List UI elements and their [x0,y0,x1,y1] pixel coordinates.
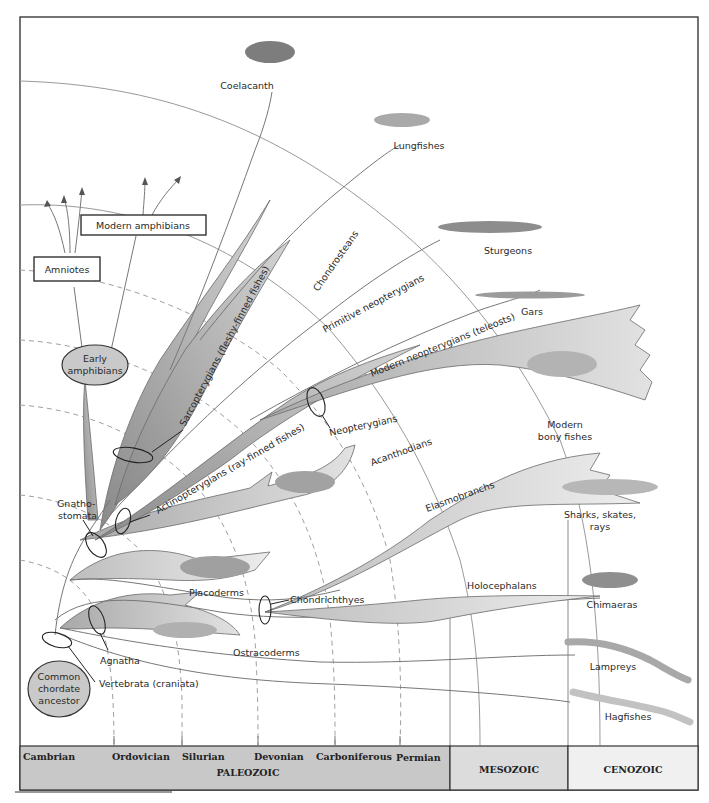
lineages [44,92,652,702]
common-ancestor-label-3: ancestor [38,695,79,706]
vertebrata-ring [41,629,74,650]
period-permian: Permian [396,752,441,763]
sturgeon-illustration [438,221,542,233]
hagfishes-label: Hagfishes [605,711,652,722]
sharks-label-1: Sharks, skates, [564,509,636,520]
vertebrata-label: Vertebrata (craniata) [99,678,199,689]
amphibian-arrow-2 [152,178,180,215]
agnatha-label: Agnatha [100,655,140,666]
arrowhead [142,177,148,185]
period-ordovician: Ordovician [112,751,170,762]
era-cenozoic: CENOZOIC [604,764,663,775]
early-amphibians-label-1: Early [83,353,107,364]
arc-period-5 [20,560,114,745]
placoderm-illustration [180,556,250,578]
shark-illustration [562,479,658,495]
lampreys-label: Lampreys [590,661,637,672]
chimaeras-label: Chimaeras [587,599,638,610]
acanthodian-illustration [275,471,335,493]
arrowhead [79,187,85,195]
chondrichthyes-label: Chondrichthyes [290,594,365,605]
time-arcs [20,81,600,746]
neopterygians-label: Neopterygians [328,413,398,438]
gnathostomata-label-2: stomata [58,510,97,521]
acanthodians-label: Acanthodians [369,435,433,467]
era-paleozoic: PALEOZOIC [216,767,280,778]
period-carboniferous: Carboniferous [316,751,392,762]
chondrosteans-label: Chondrosteans [311,228,361,293]
holocephalans-label: Holocephalans [467,580,537,591]
sharks-label-2: rays [590,521,610,532]
primitive-neopterygians-label: Primitive neopterygians [321,272,426,335]
amphibian-arrow-1 [143,180,145,215]
modern-bony-fishes-label-1: Modern [547,419,583,430]
gnathostomata-label-1: Gnatho- [57,498,95,509]
early-amphibians-label-2: amphibians [67,365,122,376]
modern-amphibians-label: Modern amphibians [96,220,190,231]
arc-boundary-1 [20,81,600,745]
amniotes-label: Amniotes [45,264,90,275]
common-ancestor-label-2: chordate [38,683,80,694]
era-mesozoic: MESOZOIC [479,764,540,775]
common-ancestor-label-1: Common [38,671,81,682]
coelacanth-label: Coelacanth [220,80,274,91]
gar-illustration [475,292,585,299]
lungfish-illustration [374,113,430,127]
modern-bony-fishes-label-2: bony fishes [538,431,592,442]
hagfish-lineage [55,632,570,702]
arrowhead [44,200,51,207]
coelacanth-illustration [245,41,295,63]
phylogeny-diagram: Modern amphibians Amniotes Early amphibi… [0,0,709,803]
perch-illustration [527,351,597,377]
sturgeons-label: Sturgeons [484,245,532,256]
gars-label: Gars [521,306,543,317]
ostracoderms-label: Ostracoderms [233,647,300,658]
diagram-frame [20,17,698,790]
arrowhead [61,195,67,203]
period-cambrian: Cambrian [23,751,75,762]
ostracoderm-illustration [153,622,217,638]
chimaera-illustration [582,572,638,588]
period-devonian: Devonian [254,751,304,762]
placoderms-label: Placoderms [189,587,244,598]
geologic-timescale: Cambrian Ordovician Silurian Devonian Ca… [20,736,698,790]
period-silurian: Silurian [182,751,225,762]
lungfishes-label: Lungfishes [394,140,445,151]
amniote-arrow-1 [47,203,65,253]
